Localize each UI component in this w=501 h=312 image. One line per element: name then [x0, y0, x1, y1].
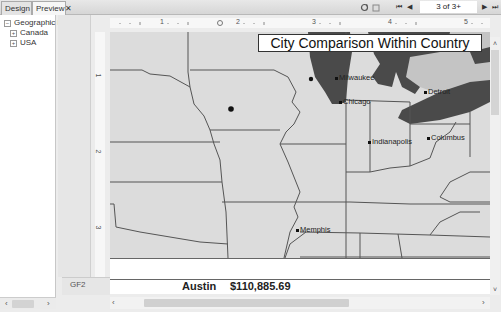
report-canvas: 1 2 3 4 5 1 2 3	[58, 15, 501, 312]
report-vertical-scrollbar[interactable]: ˄ ˅	[490, 37, 500, 295]
horizontal-ruler: 1 2 3 4 5	[110, 18, 490, 28]
tab-preview[interactable]: Preview✕	[32, 1, 66, 15]
expand-icon[interactable]: +	[10, 40, 17, 47]
scroll-left-icon[interactable]: ‹	[5, 298, 8, 310]
map-chart: City Comparison Within Country Milwaukee…	[110, 32, 490, 258]
city-dot-icon	[296, 229, 299, 232]
city-dot-icon	[339, 101, 342, 104]
group-footer-row: Austin $110,885.69	[110, 280, 490, 294]
footer-amount: $110,885.69	[230, 280, 291, 292]
city-marker-columbus[interactable]: Columbus	[427, 134, 465, 142]
scroll-down-icon[interactable]: ˅	[490, 285, 500, 295]
tree-node-canada[interactable]: + Canada	[10, 28, 48, 38]
tree-horizontal-scrollbar[interactable]: ‹ ›	[0, 297, 56, 309]
scroll-thumb[interactable]	[491, 50, 499, 115]
city-dot-icon	[427, 137, 430, 140]
scroll-thumb[interactable]	[12, 300, 34, 308]
city-marker-indianapolis[interactable]: Indianapolis	[368, 138, 412, 146]
tree-node-geographic[interactable]: − Geographic I	[4, 18, 60, 28]
first-page-button[interactable]: ⏮	[396, 2, 402, 12]
group-footer-label: GF2	[62, 277, 110, 295]
prev-page-button[interactable]: ◀	[407, 2, 412, 12]
city-marker-detroit[interactable]: Detroit	[424, 88, 450, 96]
scroll-right-icon[interactable]: ›	[482, 297, 485, 309]
last-page-button[interactable]: ⏭	[492, 2, 498, 12]
refresh-icon[interactable]	[360, 3, 369, 12]
report-title: City Comparison Within Country	[258, 34, 482, 52]
section-gutter	[58, 15, 91, 277]
next-page-button[interactable]: ▶	[482, 2, 487, 12]
report-preview-window: Design Preview✕ ⏮ ◀ 3 of 3+ ▶ ⏭ − Geogra…	[0, 0, 501, 312]
tab-design[interactable]: Design	[1, 1, 32, 15]
export-icon[interactable]	[372, 3, 381, 12]
scroll-right-icon[interactable]: ›	[47, 298, 50, 310]
close-icon[interactable]: ✕	[65, 4, 72, 13]
page-indicator[interactable]: 3 of 3+	[420, 1, 477, 13]
report-section-band	[110, 258, 490, 280]
group-tree: − Geographic I + Canada + USA	[0, 15, 56, 297]
scroll-up-icon[interactable]: ˄	[490, 39, 500, 49]
expand-icon[interactable]: +	[10, 30, 17, 37]
tab-bar: Design Preview✕ ⏮ ◀ 3 of 3+ ▶ ⏭	[0, 0, 501, 15]
city-dot-icon	[368, 141, 371, 144]
city-marker-memphis[interactable]: Memphis	[296, 226, 330, 234]
report-horizontal-scrollbar[interactable]: ‹ ›	[110, 297, 490, 309]
city-marker-chicago[interactable]: Chicago	[339, 98, 371, 106]
vertical-ruler: 1 2 3	[95, 32, 105, 277]
scroll-left-icon[interactable]: ‹	[112, 297, 115, 309]
preview-toolbar	[360, 1, 381, 14]
city-dot-icon	[335, 77, 338, 80]
tree-node-usa[interactable]: + USA	[10, 38, 36, 48]
collapse-icon[interactable]: −	[4, 20, 11, 27]
city-dot-icon	[424, 91, 427, 94]
footer-city: Austin	[182, 280, 216, 292]
scroll-thumb[interactable]	[144, 299, 349, 307]
city-marker-milwaukee[interactable]: Milwaukee	[335, 74, 374, 82]
